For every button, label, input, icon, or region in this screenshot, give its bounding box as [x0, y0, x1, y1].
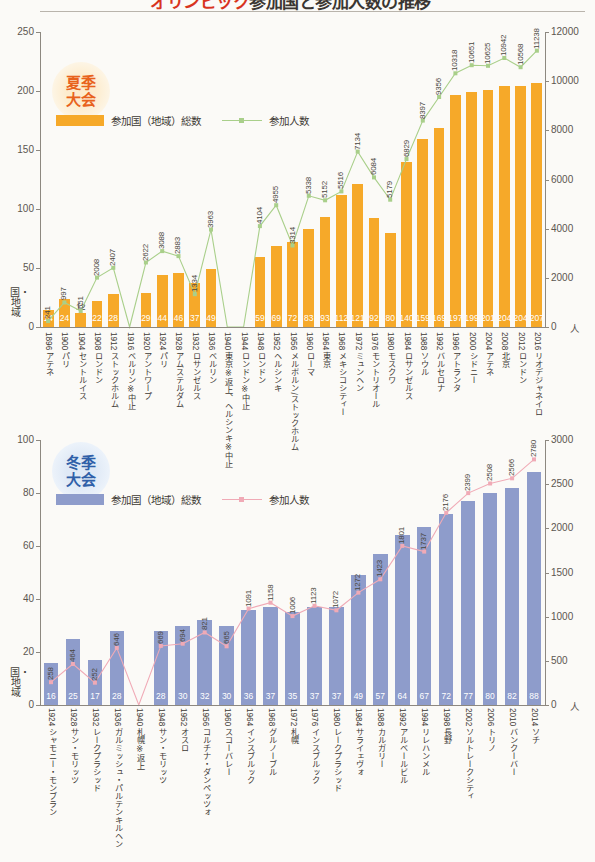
y-axis-left-line — [40, 440, 41, 706]
y-tick-left: 0 — [0, 322, 34, 332]
summer-plot-area: 1424122228294446374959697283931121219280… — [40, 32, 545, 327]
line-marker — [323, 198, 327, 202]
y-tickmark-left — [36, 150, 40, 151]
line-value-label: 1737 — [419, 520, 428, 550]
line-value-label: 3088 — [157, 219, 166, 249]
x-axis-label: 2012 ロンドン — [516, 332, 526, 385]
line-value-label: 2508 — [485, 451, 494, 481]
chart-page: オリンピック参加国と参加人数の推移 夏季 大会 参加国（地域）総数 参加人数 国… — [0, 0, 595, 862]
line-marker — [437, 95, 441, 99]
line-marker — [378, 577, 382, 581]
line-value-label: 10942 — [499, 26, 508, 56]
y-tickmark-right — [545, 81, 549, 82]
y-tickmark-left — [36, 705, 40, 706]
line-value-label: 6829 — [402, 127, 411, 157]
line-value-label: 5516 — [336, 159, 345, 189]
summer-chart: 夏季 大会 参加国（地域）総数 参加人数 国・地域 14241222282944… — [0, 20, 595, 420]
y-tickmark-right — [545, 180, 549, 181]
line-value-label: 6084 — [369, 145, 378, 175]
line-marker — [313, 604, 317, 608]
line-marker — [372, 175, 376, 179]
x-axis-label: 1972 札幌 — [288, 708, 298, 745]
x-axis-label: 1980 モスクワ — [385, 332, 395, 385]
line-value-label: 4104 — [255, 194, 264, 224]
line-marker — [269, 601, 273, 605]
y-tick-right: 500 — [551, 656, 591, 666]
line-value-label: 258 — [46, 650, 55, 680]
x-axis-line — [40, 705, 545, 706]
line-value-label: 1006 — [288, 584, 297, 614]
line-marker — [225, 644, 229, 648]
line-value-label: 3314 — [288, 214, 297, 244]
x-axis-label: 1948 ロンドン — [255, 332, 265, 385]
line-value-label: 10568 — [516, 35, 525, 65]
line-value-label: 252 — [90, 651, 99, 681]
y-tickmark-left — [36, 440, 40, 441]
x-axis-label: 1968 グルノーブル — [266, 708, 276, 777]
summer-line-series — [40, 32, 545, 327]
x-axis-label: 2010 バンクーバー — [507, 708, 517, 777]
x-axis-label: 1964 東京 — [320, 332, 330, 369]
y-axis-right-unit: 人 — [570, 321, 580, 335]
line-value-label: 4955 — [271, 173, 280, 203]
y-tick-left: 150 — [0, 145, 34, 155]
y-tickmark-right — [545, 484, 549, 485]
y-tick-right: 4000 — [551, 224, 591, 234]
line-marker — [422, 550, 426, 554]
line-value-label: 5179 — [385, 168, 394, 198]
x-axis-label: 2002 ソルトレークシティ — [463, 708, 473, 801]
y-tickmark-right — [545, 32, 549, 33]
y-tick-left: 100 — [0, 204, 34, 214]
line-value-label: 9356 — [434, 65, 443, 95]
line-marker — [160, 249, 164, 253]
line-marker — [356, 591, 360, 595]
line-marker — [95, 276, 99, 280]
x-axis-label: 2004 アテネ — [483, 332, 493, 377]
y-tickmark-left — [36, 652, 40, 653]
y-axis-right-unit: 人 — [570, 699, 580, 713]
line-marker — [93, 681, 97, 685]
x-axis-label: 1976 モントリオール — [369, 332, 379, 409]
x-axis-label: 1988 ソウル — [418, 332, 428, 377]
x-axis-label: 1904 セントルイス — [76, 332, 86, 401]
line-marker — [421, 119, 425, 123]
line-path — [51, 459, 534, 705]
y-tick-left: 250 — [0, 27, 34, 37]
y-tick-right: 10000 — [551, 76, 591, 86]
line-value-label: 7134 — [353, 120, 362, 150]
x-axis-label: 1980 レークプラシッド — [331, 708, 341, 793]
line-marker — [79, 309, 83, 313]
x-axis-label: 1924 シャモニー・モンブラン — [46, 708, 56, 817]
line-marker — [532, 457, 536, 461]
y-tick-left: 40 — [0, 594, 34, 604]
x-axis-label: 1952 ヘルシンキ — [271, 332, 281, 393]
y-tick-left: 60 — [0, 541, 34, 551]
line-value-label: 1158 — [266, 571, 275, 601]
y-tick-left: 80 — [0, 488, 34, 498]
winter-plot-area: 1625172828303230363735373749576467727780… — [40, 440, 545, 705]
x-axis-label: 1896 アテネ — [43, 332, 53, 377]
line-value-label: 8397 — [418, 89, 427, 119]
line-value-label: 464 — [68, 632, 77, 662]
line-value-label: 10318 — [450, 41, 459, 71]
winter-chart: 冬季 大会 参加国（地域）総数 参加人数 国・地域 16251728283032… — [0, 430, 595, 860]
line-value-label: 11238 — [532, 19, 541, 49]
y-tickmark-right — [545, 229, 549, 230]
x-axis-label: 1972 ミュンヘン — [353, 332, 363, 393]
line-value-label: 2780 — [529, 427, 538, 457]
x-axis-label: 1988 カルガリー — [375, 708, 385, 769]
y-tick-right: 1500 — [551, 568, 591, 578]
title-divider — [40, 11, 585, 12]
x-axis-label: 1928 アムステルダム — [173, 332, 183, 409]
y-tick-left: 20 — [0, 647, 34, 657]
line-value-label: 1334 — [190, 262, 199, 292]
line-marker — [177, 254, 181, 258]
x-axis-label: 1998 長野 — [441, 708, 451, 745]
line-marker — [400, 544, 404, 548]
y-tickmark-left — [36, 599, 40, 600]
line-marker — [502, 56, 506, 60]
x-axis-label: 1936 ガルミッシュ・パルテンキルヘン — [112, 708, 122, 849]
y-tickmark-right — [545, 661, 549, 662]
line-value-label: 3963 — [206, 198, 215, 228]
line-value-label: 2622 — [141, 231, 150, 261]
